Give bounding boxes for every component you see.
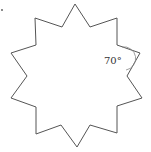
- star-diagram: 70°: [0, 0, 151, 152]
- marker-dot: [1, 9, 3, 11]
- angle-label: 70°: [104, 55, 122, 66]
- ten-point-star-polygon: [11, 4, 142, 147]
